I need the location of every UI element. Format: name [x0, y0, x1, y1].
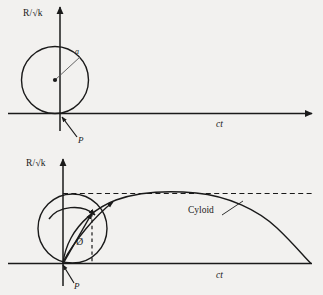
top-point-p-label: P: [78, 136, 84, 145]
physics-figure: [0, 0, 323, 295]
cycloid-curve: [63, 192, 311, 264]
top-radius-label: a: [75, 48, 79, 56]
bottom-x-axis-label: ct: [216, 271, 223, 281]
bottom-point-p-label: P: [74, 282, 80, 291]
bottom-y-axis-label: R/√k: [26, 159, 46, 169]
rolling-circle: [38, 194, 107, 263]
bottom-panel: [8, 159, 314, 286]
angle-phi-label: Ø: [76, 237, 83, 247]
top-x-axis-label: ct: [216, 120, 223, 130]
cyloid-leader-line: [222, 201, 243, 215]
top-panel: [8, 7, 312, 137]
top-y-axis-label: R/√k: [23, 9, 43, 19]
top-radius-line: [55, 57, 80, 80]
bottom-point-p-arrow: [63, 265, 74, 283]
top-center-dot: [53, 78, 57, 82]
top-point-p-arrow: [62, 117, 77, 137]
cyloid-curve-label: Cyloid: [188, 206, 214, 216]
